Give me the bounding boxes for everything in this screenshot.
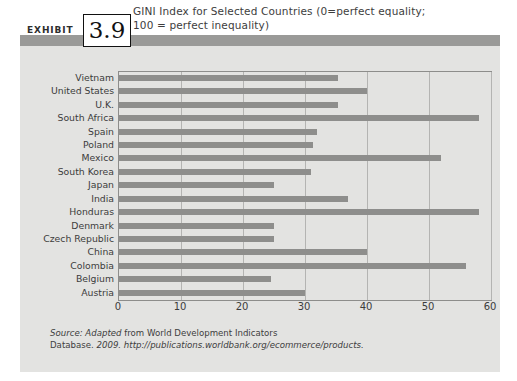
category-label-belgium: Belgium: [20, 272, 114, 285]
x-tick-60: 60: [484, 301, 497, 312]
category-label-japan: Japan: [20, 178, 114, 191]
bar-row: [119, 220, 491, 233]
chart-title: GINI Index for Selected Countries (0=per…: [133, 4, 483, 32]
source-prefix: Source: Adapted: [50, 328, 122, 338]
source-note: Source: Adapted from World Development I…: [50, 327, 484, 351]
x-tick-40: 40: [360, 301, 373, 312]
exhibit-panel: VietnamUnited StatesU.K.South AfricaSpai…: [20, 35, 500, 372]
bar-row: [119, 99, 491, 112]
bar-united-states: [119, 88, 367, 94]
x-tick-0: 0: [115, 301, 121, 312]
gridline-60: [491, 72, 492, 300]
bar-south-africa: [119, 115, 479, 121]
x-tick-30: 30: [298, 301, 311, 312]
chart-title-line-2: 100 = perfect inequality): [133, 18, 483, 32]
bar-honduras: [119, 209, 479, 215]
category-label-honduras: Honduras: [20, 205, 114, 218]
exhibit-number-box: 3.9: [83, 14, 131, 47]
plot-area: [118, 71, 492, 301]
category-label-india: India: [20, 192, 114, 205]
bar-row: [119, 287, 491, 300]
bar-czech-republic: [119, 236, 274, 242]
category-axis-labels: VietnamUnited StatesU.K.South AfricaSpai…: [20, 71, 114, 299]
category-label-poland: Poland: [20, 138, 114, 151]
bar-row: [119, 85, 491, 98]
bar-row: [119, 166, 491, 179]
x-axis-tick-labels: 0102030405060: [118, 301, 490, 317]
category-label-spain: Spain: [20, 125, 114, 138]
x-tick-10: 10: [174, 301, 187, 312]
bar-series: [119, 72, 491, 300]
chart-title-line-1: GINI Index for Selected Countries (0=per…: [133, 4, 483, 18]
category-label-united-states: United States: [20, 84, 114, 97]
bar-row: [119, 139, 491, 152]
bar-row: [119, 179, 491, 192]
bar-row: [119, 152, 491, 165]
bar-spain: [119, 129, 317, 135]
exhibit-number: 3.9: [84, 15, 130, 46]
bar-austria: [119, 290, 305, 296]
bar-row: [119, 260, 491, 273]
bar-mexico: [119, 155, 441, 161]
bar-poland: [119, 142, 313, 148]
bar-row: [119, 72, 491, 85]
bar-colombia: [119, 263, 466, 269]
category-label-mexico: Mexico: [20, 151, 114, 164]
bar-row: [119, 126, 491, 139]
bar-row: [119, 246, 491, 259]
category-label-u-k-: U.K.: [20, 98, 114, 111]
bar-denmark: [119, 223, 274, 229]
category-label-czech-republic: Czech Republic: [20, 232, 114, 245]
category-label-colombia: Colombia: [20, 259, 114, 272]
bar-row: [119, 273, 491, 286]
category-label-south-africa: South Africa: [20, 111, 114, 124]
category-label-china: China: [20, 245, 114, 258]
source-url: http://publications.worldbank.org/ecomme…: [124, 340, 364, 350]
bar-row: [119, 193, 491, 206]
x-tick-50: 50: [422, 301, 435, 312]
bar-china: [119, 249, 367, 255]
category-label-south-korea: South Korea: [20, 165, 114, 178]
bar-row: [119, 233, 491, 246]
bar-row: [119, 206, 491, 219]
category-label-austria: Austria: [20, 286, 114, 299]
source-year: 2009.: [96, 340, 121, 350]
bar-belgium: [119, 276, 271, 282]
x-tick-20: 20: [236, 301, 249, 312]
bar-south-korea: [119, 169, 311, 175]
exhibit-label: EXHIBIT: [27, 25, 74, 35]
bar-india: [119, 196, 348, 202]
bar-japan: [119, 182, 274, 188]
bar-vietnam: [119, 75, 338, 81]
bar-row: [119, 112, 491, 125]
category-label-denmark: Denmark: [20, 219, 114, 232]
category-label-vietnam: Vietnam: [20, 71, 114, 84]
bar-u-k-: [119, 102, 338, 108]
